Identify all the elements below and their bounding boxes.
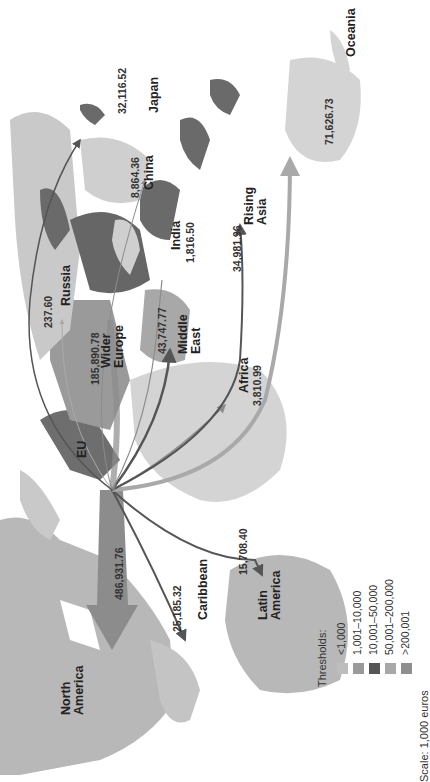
- legend-swatch-50001-200000: [385, 663, 396, 674]
- value-oceania: 71,626.73: [324, 98, 335, 145]
- land-japan: [80, 104, 105, 125]
- value-caribbean: 25,185.32: [172, 585, 183, 632]
- region-label-wider-europe: Wider Europe: [100, 325, 126, 368]
- region-label-russia: Russia: [60, 265, 73, 306]
- value-russia: 237.60: [43, 296, 54, 328]
- value-latin-america: 15,708.40: [238, 528, 249, 575]
- region-label-africa: Africa: [238, 358, 251, 393]
- region-label-rising-asia: Rising Asia: [243, 187, 269, 225]
- legend-label-gt200001: >200,001: [399, 611, 411, 655]
- legend-label-10001-50000: 10,001–50,000: [367, 585, 379, 655]
- region-label-latin-america: Latin America: [257, 571, 283, 620]
- value-africa: 3,810.99: [252, 365, 263, 406]
- land-latin-america: [225, 555, 348, 693]
- legend-swatch-lt1000: [337, 663, 348, 674]
- legend-swatch-gt200001: [401, 663, 412, 674]
- legend-swatch-1001-10000: [353, 663, 364, 674]
- scale-label: Scale: 1,000 euros: [418, 690, 430, 782]
- region-label-india: India: [170, 221, 183, 250]
- region-label-oceania: Oceania: [345, 8, 358, 57]
- land-north-america: [0, 518, 175, 776]
- value-wider-europe: 185,890.78: [90, 332, 101, 385]
- region-label-caribbean: Caribbean: [197, 559, 210, 620]
- legend-label-lt1000: <1,000: [335, 623, 347, 655]
- legend-label-1001-10000: 1,001–10,000: [351, 591, 363, 655]
- legend-label-50001-200000: 50,001–200,000: [383, 579, 395, 655]
- region-label-north-america: North America: [60, 666, 86, 715]
- legend-title: Thresholds:: [316, 630, 328, 687]
- value-middle-east: 43,747.77: [157, 307, 168, 354]
- value-rising-asia: 34,981.96: [232, 225, 243, 272]
- region-label-japan: Japan: [148, 77, 161, 113]
- region-label-china: China: [143, 155, 156, 190]
- region-label-middle-east: Middle East: [177, 314, 203, 354]
- value-india: 1,816.50: [185, 222, 196, 263]
- value-china: 8,864.36: [130, 157, 141, 198]
- legend-swatch-10001-50000: [369, 663, 380, 674]
- land-africa: [130, 362, 287, 502]
- value-north-america: 486,931.76: [114, 547, 125, 600]
- origin-label-eu: EU: [76, 441, 89, 458]
- value-japan: 32,116.52: [117, 68, 128, 114]
